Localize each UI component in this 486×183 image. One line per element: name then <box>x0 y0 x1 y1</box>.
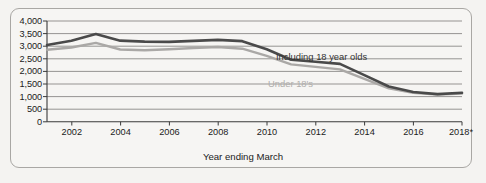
series-annotation-under-18s: Under 18's <box>268 78 313 89</box>
x-axis-tick-label: 2008 <box>198 127 238 137</box>
x-axis-tick-label: 2010 <box>247 127 287 137</box>
x-axis-title: Year ending March <box>0 151 486 162</box>
series-line-including-18-year-olds <box>47 34 462 94</box>
line-chart: 4,000 3,500 3,000 2,500 2,000 1,500 1,00… <box>0 0 486 183</box>
x-axis-tick-label: 2012 <box>296 127 336 137</box>
x-axis-tick-label: 2014 <box>345 127 385 137</box>
x-axis-tick-label: 2004 <box>101 127 141 137</box>
x-axis-ticks <box>72 122 462 126</box>
x-axis-tick-label: 2018* <box>441 127 481 137</box>
series-line-under-18s-path <box>47 43 462 95</box>
x-axis-tick-label: 2006 <box>149 127 189 137</box>
gridlines <box>47 21 462 109</box>
x-axis-tick-label: 2002 <box>52 127 92 137</box>
x-axis-tick-label: 2016 <box>393 127 433 137</box>
series-annotation-including-18-year-olds: Including 18 year olds <box>276 51 367 62</box>
y-axis-ticks <box>43 21 47 122</box>
